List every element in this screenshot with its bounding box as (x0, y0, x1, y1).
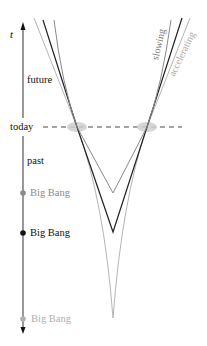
big-bang-label-accelerating: Big Bang (31, 313, 71, 325)
big-bang-label-constant: Big Bang (30, 227, 70, 239)
axis-up-arrow-icon (21, 22, 26, 30)
time-axis-label: t (10, 29, 13, 41)
accelerating-curve (34, 18, 190, 318)
past-label: past (27, 155, 44, 167)
big-bang-dot-slowing (20, 190, 26, 196)
big-bang-label-slowing: Big Bang (30, 187, 70, 199)
future-label: future (27, 74, 52, 86)
big-bang-dot-accelerating (20, 316, 26, 322)
today-label: today (10, 121, 33, 133)
big-bang-dot-constant (20, 230, 26, 236)
axis-down-arrow-icon (21, 327, 26, 334)
